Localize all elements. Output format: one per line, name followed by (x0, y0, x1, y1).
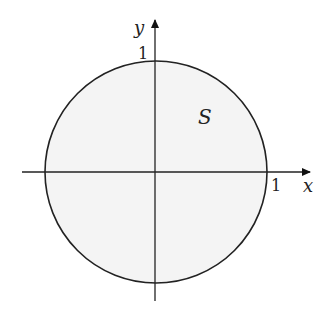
x-tick-label: 1 (271, 176, 281, 195)
unit-disk-diagram: y 1 1 x S (0, 0, 330, 310)
y-axis-label: y (133, 17, 145, 38)
y-tick-label: 1 (138, 44, 148, 63)
x-axis-label: x (303, 175, 313, 196)
region-label: S (198, 105, 212, 129)
